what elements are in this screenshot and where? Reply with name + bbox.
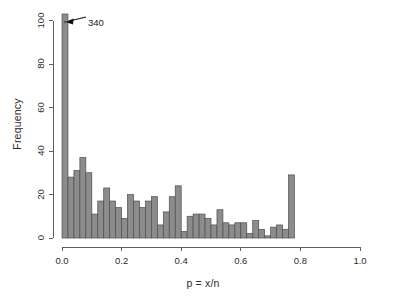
y-axis-title: Frequency	[11, 74, 23, 174]
histogram-bar	[205, 218, 211, 238]
x-tick-label: 0.4	[166, 255, 196, 266]
histogram-bar	[277, 225, 283, 238]
y-tick-label: 20	[35, 181, 46, 207]
histogram-bar	[247, 234, 253, 238]
histogram-bar	[145, 201, 151, 238]
histogram-bar	[259, 229, 265, 238]
histogram-bar	[122, 218, 128, 238]
x-tick-label: 0.2	[107, 255, 137, 266]
histogram-bar	[68, 177, 74, 238]
histogram-bar	[288, 175, 294, 238]
histogram-bar	[110, 201, 116, 238]
histogram-bar	[193, 214, 199, 238]
histogram-bar	[241, 223, 247, 238]
histogram-bar	[187, 216, 193, 238]
histogram-bar	[217, 210, 223, 238]
histogram-bar	[253, 221, 259, 238]
histogram-bar	[98, 201, 104, 238]
x-tick-label: 0.8	[285, 255, 315, 266]
histogram-bar	[229, 225, 235, 238]
histogram-bar	[134, 201, 140, 238]
histogram-bar	[62, 14, 68, 238]
histogram-bar	[271, 227, 277, 238]
y-tick-label: 0	[35, 225, 46, 251]
x-axis-title: p = x/n	[153, 277, 253, 289]
x-tick-label: 0.0	[47, 255, 77, 266]
histogram-bar	[80, 158, 86, 238]
histogram-bar	[74, 171, 80, 238]
histogram-bar	[92, 214, 98, 238]
histogram-bar	[163, 212, 169, 238]
y-tick-label: 100	[35, 7, 46, 33]
histogram-bar	[86, 173, 92, 238]
histogram-bar	[157, 225, 163, 238]
histogram-bar	[265, 236, 271, 238]
y-tick-label: 60	[35, 94, 46, 120]
y-tick-label: 40	[35, 138, 46, 164]
histogram-bar	[139, 208, 145, 238]
histogram-bar	[175, 186, 181, 238]
x-tick-label: 1.0	[345, 255, 375, 266]
histogram-bar	[211, 225, 217, 238]
histogram-bar	[151, 197, 157, 238]
histogram-bar	[116, 208, 122, 238]
histogram-bar	[283, 229, 289, 238]
histogram-bar	[104, 188, 110, 238]
x-tick-label: 0.6	[226, 255, 256, 266]
histogram-bar	[199, 214, 205, 238]
histogram-bar	[181, 231, 187, 238]
histogram-figure: Frequency p = x/n 020406080100 0.00.20.4…	[0, 0, 406, 301]
y-tick-label: 80	[35, 51, 46, 77]
bars-group	[62, 14, 294, 238]
histogram-bar	[235, 223, 241, 238]
histogram-bar	[128, 195, 134, 239]
annotation-target-dot	[64, 21, 67, 24]
histogram-bar	[169, 197, 175, 238]
annotation-label: 340	[88, 17, 104, 28]
histogram-bar	[223, 223, 229, 238]
